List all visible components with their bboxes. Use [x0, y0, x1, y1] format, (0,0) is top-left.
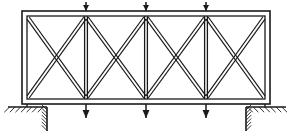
truss-diagram — [0, 0, 293, 136]
figure-canvas — [0, 0, 293, 136]
